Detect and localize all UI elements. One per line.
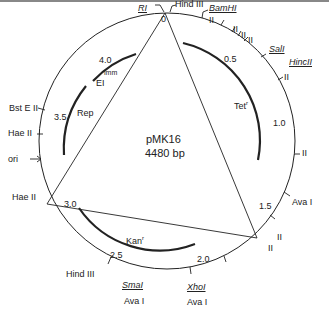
site-ecori: RI (138, 3, 147, 13)
site-haeii: II (248, 35, 253, 45)
site-bsteii: Bst E II (9, 103, 38, 113)
scale-2.5: 2.5 (110, 250, 123, 260)
site-hindiii-bottom: Hind III (66, 269, 95, 279)
site-haeii: II (302, 148, 307, 158)
site-avai-sma: Ava I (124, 296, 144, 306)
scale-0: 0 (161, 14, 166, 24)
scale-4.0: 4.0 (99, 55, 112, 65)
site-haeii-bottom: Hae II (12, 192, 36, 202)
gene-kan: Kanr (126, 235, 144, 246)
site-xhoi: XhoI (187, 282, 206, 292)
scale-1.0: 1.0 (273, 118, 286, 128)
scale-3.0: 3.0 (64, 199, 77, 209)
site-ori: ori (8, 154, 18, 164)
site-hindiii-top: Hind III (175, 0, 204, 9)
scale-0.5: 0.5 (224, 54, 237, 64)
site-haeii: II (233, 24, 238, 34)
site-avai-xho: Ava I (187, 297, 207, 307)
gene-ei: EI (96, 78, 105, 88)
scale-3.5: 3.5 (54, 112, 67, 122)
site-haeii: II (277, 232, 282, 242)
site-haeii: II (241, 30, 246, 40)
site-bamhi: BamHI (209, 3, 237, 13)
site-smai: SmaI (122, 280, 143, 290)
gene-rep: Rep (77, 108, 94, 118)
plasmid-size: 4480 bp (145, 147, 185, 159)
gene-ei-imm: imm (104, 69, 117, 76)
site-hincii: HincII (289, 57, 312, 67)
site-sali: SalI (269, 44, 285, 54)
site-haeii: II (284, 72, 289, 82)
plasmid-name: pMK16 (146, 133, 181, 145)
scale-1.5: 1.5 (259, 201, 272, 211)
site-haeii: II (209, 15, 214, 25)
site-avai-right: Ava I (292, 197, 312, 207)
site-haeii: II (268, 243, 273, 253)
site-haeii-top: Hae II (8, 128, 32, 138)
scale-2.0: 2.0 (197, 254, 210, 264)
gene-tet: Tetr (234, 100, 248, 111)
